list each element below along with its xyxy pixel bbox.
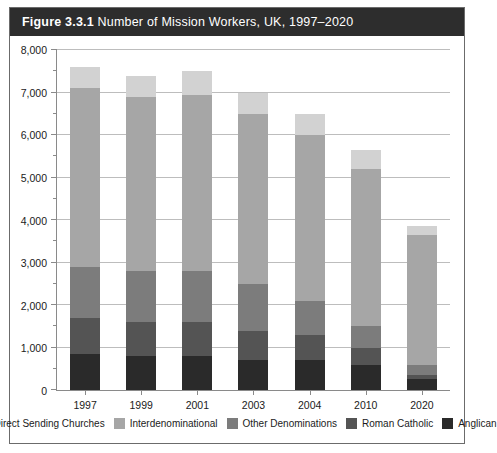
bar-segment[interactable] xyxy=(70,354,100,390)
legend-label: Other Denominations xyxy=(243,418,338,429)
stacked-bar[interactable] xyxy=(238,93,268,391)
y-axis-label: 3,000 xyxy=(21,257,47,269)
bar-segment[interactable] xyxy=(351,169,381,326)
plot-area: 1997199920012003200420102020 xyxy=(56,50,450,391)
legend-item[interactable]: Direct Sending Churches xyxy=(0,418,105,429)
x-axis-label: 1999 xyxy=(113,399,169,411)
stacked-bar[interactable] xyxy=(126,76,156,391)
legend-label: Anglican xyxy=(458,418,496,429)
x-axis-tick xyxy=(85,390,86,395)
legend-swatch xyxy=(346,418,357,429)
bar-segment[interactable] xyxy=(407,226,437,235)
x-axis-tick xyxy=(310,390,311,395)
bar-segment[interactable] xyxy=(351,365,381,391)
bar-slot: 2020 xyxy=(394,50,450,390)
bar-segment[interactable] xyxy=(407,365,437,376)
bar-segment[interactable] xyxy=(238,284,268,331)
y-axis-label: 4,000 xyxy=(21,215,47,227)
x-axis-tick xyxy=(366,390,367,395)
y-axis-label: 8,000 xyxy=(21,44,47,56)
chart-legend: Direct Sending ChurchesInterdenomination… xyxy=(24,413,450,433)
x-axis-tick xyxy=(422,390,423,395)
x-axis-label: 2003 xyxy=(225,399,281,411)
stacked-bar[interactable] xyxy=(182,71,212,390)
legend-swatch xyxy=(114,418,125,429)
legend-label: Interdenominational xyxy=(130,418,218,429)
bar-segment[interactable] xyxy=(126,356,156,390)
legend-item[interactable]: Roman Catholic xyxy=(346,418,433,429)
legend-label: Roman Catholic xyxy=(362,418,433,429)
y-axis-label: 2,000 xyxy=(21,300,47,312)
x-axis-label: 2001 xyxy=(169,399,225,411)
bar-segment[interactable] xyxy=(70,88,100,267)
figure-caption-text: Number of Mission Workers, UK, 1997–2020 xyxy=(98,15,354,29)
bar-segment[interactable] xyxy=(238,360,268,390)
y-axis-label: 5,000 xyxy=(21,172,47,184)
y-axis-label: 7,000 xyxy=(21,87,47,99)
y-axis-label: 1,000 xyxy=(21,342,47,354)
legend-label: Direct Sending Churches xyxy=(0,418,105,429)
bar-segment[interactable] xyxy=(182,322,212,356)
bar-segment[interactable] xyxy=(295,135,325,301)
bar-segment[interactable] xyxy=(70,267,100,318)
bar-group: 1997199920012003200420102020 xyxy=(57,50,450,390)
bar-slot: 1999 xyxy=(113,50,169,390)
bar-segment[interactable] xyxy=(407,235,437,365)
bar-segment[interactable] xyxy=(182,71,212,94)
bar-segment[interactable] xyxy=(182,356,212,390)
bar-segment[interactable] xyxy=(70,318,100,354)
bar-segment[interactable] xyxy=(126,76,156,97)
bar-segment[interactable] xyxy=(126,271,156,322)
bar-segment[interactable] xyxy=(295,114,325,135)
bar-segment[interactable] xyxy=(238,114,268,284)
bar-slot: 1997 xyxy=(57,50,113,390)
bar-segment[interactable] xyxy=(351,326,381,347)
y-axis-label: 6,000 xyxy=(21,129,47,141)
figure-frame: Figure 3.3.1 Number of Mission Workers, … xyxy=(9,7,465,444)
bar-slot: 2001 xyxy=(169,50,225,390)
bar-segment[interactable] xyxy=(182,95,212,271)
bar-slot: 2004 xyxy=(282,50,338,390)
legend-item[interactable]: Other Denominations xyxy=(227,418,338,429)
stacked-bar[interactable] xyxy=(295,114,325,390)
bar-segment[interactable] xyxy=(126,322,156,356)
chart-area: 1997199920012003200420102020 01,0002,000… xyxy=(10,36,464,443)
figure-number: Figure 3.3.1 xyxy=(22,15,94,29)
legend-swatch xyxy=(227,418,238,429)
bar-slot: 2010 xyxy=(338,50,394,390)
bar-segment[interactable] xyxy=(351,348,381,365)
figure-title-bar: Figure 3.3.1 Number of Mission Workers, … xyxy=(10,8,464,36)
bar-slot: 2003 xyxy=(225,50,281,390)
legend-swatch xyxy=(442,418,453,429)
y-axis-label: 0 xyxy=(41,385,47,397)
legend-item[interactable]: Anglican xyxy=(442,418,496,429)
bar-segment[interactable] xyxy=(182,271,212,322)
stacked-bar[interactable] xyxy=(351,150,381,390)
bar-segment[interactable] xyxy=(295,301,325,335)
bar-segment[interactable] xyxy=(407,379,437,390)
stacked-bar[interactable] xyxy=(407,226,437,390)
bar-segment[interactable] xyxy=(70,67,100,88)
bar-segment[interactable] xyxy=(126,97,156,271)
x-axis-tick xyxy=(141,390,142,395)
bar-segment[interactable] xyxy=(238,331,268,361)
bar-segment[interactable] xyxy=(295,360,325,390)
x-axis-tick xyxy=(197,390,198,395)
bar-segment[interactable] xyxy=(238,93,268,114)
x-axis-label: 2010 xyxy=(338,399,394,411)
bar-segment[interactable] xyxy=(295,335,325,361)
bar-segment[interactable] xyxy=(351,150,381,169)
x-axis-label: 2020 xyxy=(394,399,450,411)
x-axis-label: 2004 xyxy=(282,399,338,411)
page-title: Figure 3.3.1 Number of Mission Workers, … xyxy=(22,15,353,29)
plot-wrapper: 1997199920012003200420102020 01,0002,000… xyxy=(56,50,450,391)
x-axis-label: 1997 xyxy=(57,399,113,411)
stacked-bar[interactable] xyxy=(70,67,100,390)
x-axis-tick xyxy=(253,390,254,395)
legend-item[interactable]: Interdenominational xyxy=(114,418,218,429)
